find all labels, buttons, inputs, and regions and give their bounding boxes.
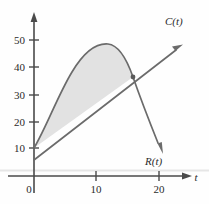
graph-figure: 50 40 30 20 10 0 10 20 t C(t) R(t) [0,0,209,204]
x-tick-label-20: 20 [154,183,166,195]
intersection-point [131,75,136,80]
y-tick-label-20: 20 [14,116,26,128]
y-tick-label-30: 30 [14,89,26,101]
y-tick-label-40: 40 [14,61,26,73]
x-axis-label: t [194,171,198,183]
x-tick-label-0: 0 [26,183,32,195]
shaded-region [34,44,133,148]
x-tick-label-10: 10 [91,183,103,195]
x-axis-arrowhead [182,173,192,180]
y-tick-label-50: 50 [14,34,26,46]
curve-r-arrowhead [158,142,164,154]
curve-label-c: C(t) [165,15,183,28]
y-axis-arrowhead [31,12,38,22]
curve-label-r: R(t) [144,155,162,168]
curve-c-arrowhead [172,45,183,52]
y-tick-label-10: 10 [14,142,26,154]
graph-canvas: 50 40 30 20 10 0 10 20 t C(t) R(t) [0,0,209,204]
